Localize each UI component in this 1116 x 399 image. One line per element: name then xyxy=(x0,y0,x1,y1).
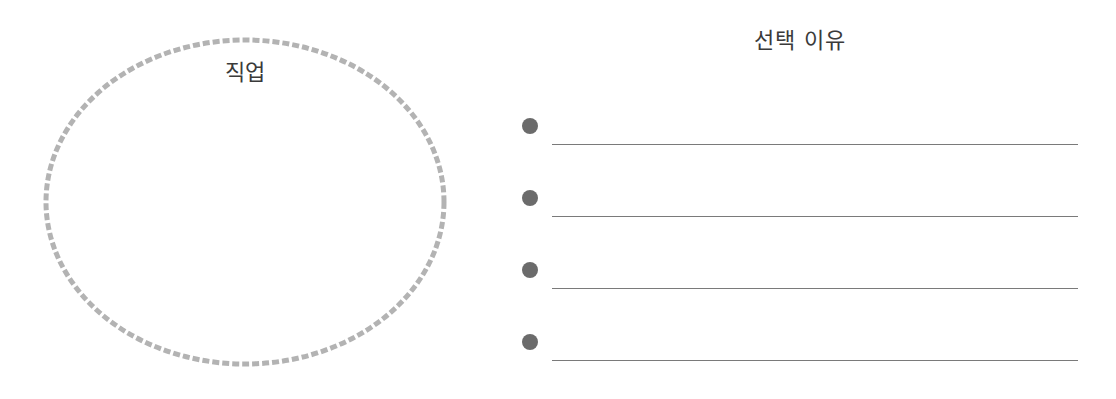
reason-row-4 xyxy=(522,334,1078,374)
answer-line-4[interactable] xyxy=(552,360,1078,361)
job-label: 직업 xyxy=(40,54,450,86)
reason-title: 선택 이유 xyxy=(520,22,1080,54)
bullet-icon xyxy=(522,334,538,350)
job-ellipse: 직업 xyxy=(40,34,450,370)
reason-row-1 xyxy=(522,118,1078,158)
answer-line-1[interactable] xyxy=(552,144,1078,145)
bullet-icon xyxy=(522,190,538,206)
reason-row-2 xyxy=(522,190,1078,230)
bullet-icon xyxy=(522,262,538,278)
answer-line-2[interactable] xyxy=(552,216,1078,217)
answer-line-3[interactable] xyxy=(552,288,1078,289)
bullet-icon xyxy=(522,118,538,134)
reason-row-3 xyxy=(522,262,1078,302)
